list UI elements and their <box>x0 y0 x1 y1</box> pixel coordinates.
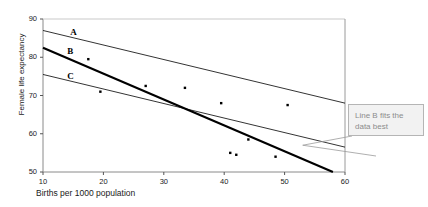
data-point <box>184 87 186 89</box>
data-point <box>235 154 237 156</box>
callout-annotation: Line B fits the data best <box>348 104 424 136</box>
x-tick-label: 10 <box>34 177 52 186</box>
data-point <box>274 156 276 158</box>
y-tick-label: 50 <box>23 167 37 176</box>
y-tick-label: 60 <box>23 129 37 138</box>
regression-lines <box>43 30 345 172</box>
regression-line-c <box>43 74 345 147</box>
data-point <box>247 138 249 140</box>
x-axis-label: Births per 1000 population <box>36 188 135 198</box>
data-point <box>286 104 288 106</box>
y-tick-label: 70 <box>23 91 37 100</box>
y-tick-label: 90 <box>23 14 37 23</box>
y-axis-label: Female life expectancy <box>17 10 26 140</box>
regression-line-b <box>43 48 333 172</box>
x-tick-label: 40 <box>215 177 233 186</box>
data-point <box>99 90 101 92</box>
line-label-c: C <box>67 71 74 81</box>
data-point <box>144 85 146 87</box>
y-tick-label: 80 <box>23 52 37 61</box>
x-tick-label: 50 <box>276 177 294 186</box>
data-point-group <box>87 58 289 158</box>
line-label-b: B <box>67 46 73 56</box>
chart-figure: Female life expectancy Births per 1000 p… <box>0 0 428 207</box>
x-tick-label: 30 <box>155 177 173 186</box>
x-tick-label: 20 <box>94 177 112 186</box>
data-point <box>87 58 89 60</box>
data-point <box>229 152 231 154</box>
x-tick-label: 60 <box>336 177 354 186</box>
line-label-a: A <box>70 27 77 37</box>
axis-lines <box>43 19 345 172</box>
data-point <box>220 102 222 104</box>
